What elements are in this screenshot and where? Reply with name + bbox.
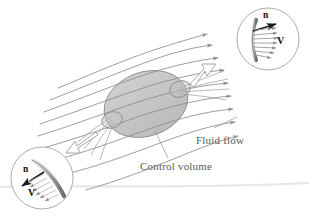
control-volume-label: Control volume (140, 160, 212, 172)
callout-arrow-inflow (66, 132, 98, 153)
diagram-svg: n V n V (0, 0, 309, 218)
inset-inflow-n-label: n (23, 164, 29, 174)
inset-inflow: n V (11, 147, 73, 209)
inset-inflow-circle (11, 147, 73, 209)
figure-canvas: n V n V Fluid flow Control volum (0, 0, 309, 218)
inset-inflow-v-label: V (28, 187, 36, 198)
fluid-flow-label: Fluid flow (196, 134, 244, 146)
inset-outflow: n V (237, 8, 299, 70)
inset-outflow-n-label: n (263, 10, 269, 20)
inset-outflow-v-label: V (277, 35, 285, 46)
